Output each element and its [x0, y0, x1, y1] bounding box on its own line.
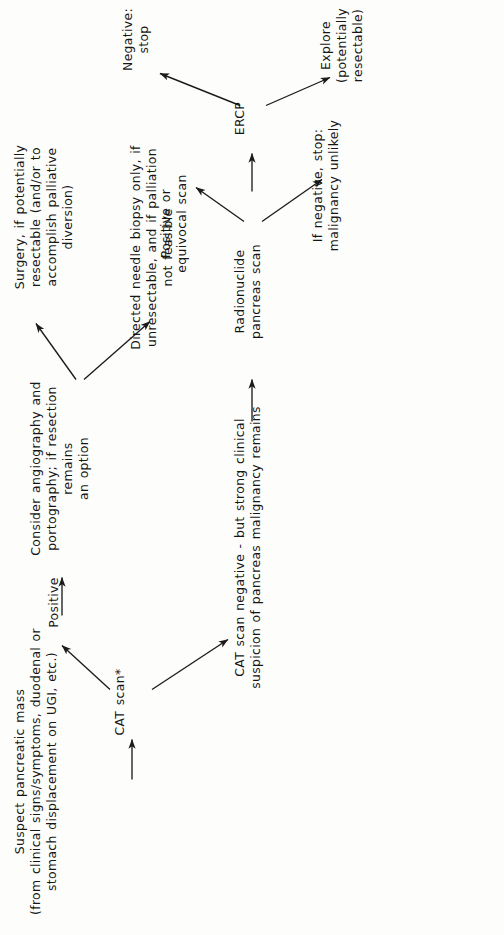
flowchart-page: Suspect pancreatic mass (from clinical s… [0, 0, 504, 935]
node-radionuclide-pancreas-scan: Radionuclide pancreas scan [232, 207, 264, 375]
node-suspect-pancreatic-mass: Suspect pancreatic mass (from clinical s… [12, 621, 60, 921]
flowchart-canvas: Suspect pancreatic mass (from clinical s… [0, 0, 504, 935]
node-cat-scan: CAT scan* [112, 627, 128, 735]
edge-ercp-to-negativestop [160, 73, 240, 105]
node-positive-or-equivocal-scan: Positive or equivocal scan [158, 159, 190, 287]
node-surgery: Surgery, if potentially resectable (and/… [12, 114, 77, 319]
node-negative-stop: Negative: stop [120, 5, 152, 73]
node-consider-angiography: Consider angiography and portography; if… [28, 363, 93, 573]
node-explore: Explore (potentially resectable) [318, 1, 366, 89]
node-cat-scan-negative: CAT scan negative - but strong clinical … [232, 397, 264, 697]
edge-cat-to-catnegative [152, 639, 228, 689]
node-ercp: ERCP [232, 87, 248, 149]
node-if-negative-stop: If negative, stop: malignancy unlikely [310, 95, 342, 275]
edge-cat-to-positive [62, 645, 110, 689]
